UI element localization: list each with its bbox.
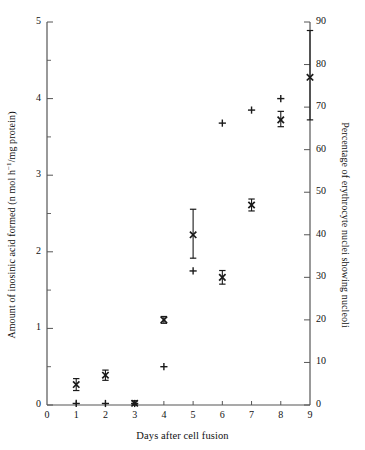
y-right-tick-label: 20: [316, 313, 336, 324]
y-right-tick-label: 10: [316, 355, 336, 366]
axis-ticks: [47, 22, 310, 405]
x-tick-label: 8: [271, 409, 291, 420]
x-tick-label: 7: [242, 409, 262, 420]
data-points-layer: [73, 31, 314, 408]
y-left-tick-label: 4: [23, 92, 41, 103]
marker-plus: [219, 120, 226, 127]
y-right-tick-label: 70: [316, 100, 336, 111]
y-right-tick-label: 50: [316, 185, 336, 196]
y-right-tick-label: 60: [316, 143, 336, 154]
scatter-plot: [0, 0, 365, 450]
x-tick-label: 5: [183, 409, 203, 420]
axes-lines: [47, 22, 310, 405]
y-left-tick-label: 5: [23, 15, 41, 26]
x-tick-label: 2: [95, 409, 115, 420]
y-axis-right-title: Percentage of erythrocyte nuclei showing…: [338, 0, 352, 450]
y-right-tick-label: 90: [316, 15, 336, 26]
y-left-title-exponent: −1: [5, 162, 13, 170]
x-tick-label: 4: [154, 409, 174, 420]
x-tick-label: 9: [300, 409, 320, 420]
figure-container: Amount of inosinic acid formed (n mol h−…: [0, 0, 365, 450]
x-tick-label: 0: [37, 409, 57, 420]
marker-plus: [248, 106, 255, 113]
y-right-tick-label: 40: [316, 228, 336, 239]
y-axis-left-title: Amount of inosinic acid formed (n mol h−…: [2, 0, 16, 450]
y-left-tick-label: 1: [23, 321, 41, 332]
x-tick-label: 3: [125, 409, 145, 420]
y-right-tick-label: 30: [316, 270, 336, 281]
y-left-tick-label: 3: [23, 168, 41, 179]
y-left-tick-label: 0: [23, 398, 41, 409]
marker-plus: [102, 400, 109, 407]
x-axis-title: Days after cell fusion: [0, 430, 365, 441]
x-tick-label: 1: [66, 409, 86, 420]
y-left-title-post: /mg protein): [6, 111, 17, 162]
y-right-tick-label: 80: [316, 58, 336, 69]
marker-plus: [277, 95, 284, 102]
marker-plus: [160, 363, 167, 370]
y-right-tick-label: 0: [316, 398, 336, 409]
y-left-title-pre: Amount of inosinic acid formed (n mol h: [6, 170, 17, 339]
marker-plus: [73, 400, 80, 407]
marker-plus: [190, 267, 197, 274]
x-tick-label: 6: [212, 409, 232, 420]
y-left-tick-label: 2: [23, 245, 41, 256]
